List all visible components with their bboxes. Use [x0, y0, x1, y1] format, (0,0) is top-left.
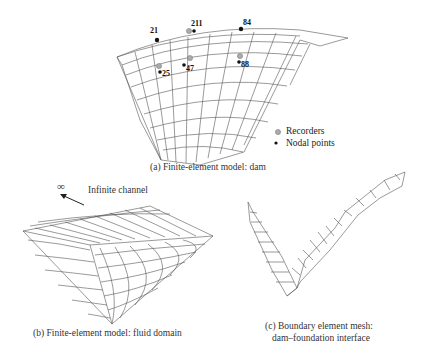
infinite-channel-label: Infinite channel	[88, 185, 148, 195]
caption-c-line1: (c) Boundary element mesh:	[265, 321, 373, 331]
node-label-25: 25	[162, 69, 170, 78]
caption-b: (b) Finite-element model: fluid domain	[33, 328, 182, 338]
node-label-84: 84	[243, 18, 251, 27]
node-label-211: 211	[191, 19, 203, 28]
legend-recorders: Recorders	[286, 126, 325, 136]
figure-canvas	[0, 0, 422, 355]
boundary-element-mesh	[248, 172, 405, 296]
infinite-channel-arrow	[60, 194, 84, 205]
fluid-mesh	[23, 206, 213, 324]
legend-nodal-points: Nodal points	[286, 138, 335, 148]
node-label-47: 47	[186, 64, 194, 73]
node-label-88: 88	[241, 60, 249, 69]
nodal-point-markers	[155, 27, 278, 145]
node-label-21: 21	[150, 26, 158, 35]
caption-c-line2: dam–foundation interface	[272, 333, 370, 343]
caption-a: (a) Finite-element model: dam	[150, 162, 266, 172]
recorder-markers	[156, 28, 280, 134]
infinity-symbol: ∞	[57, 180, 65, 192]
